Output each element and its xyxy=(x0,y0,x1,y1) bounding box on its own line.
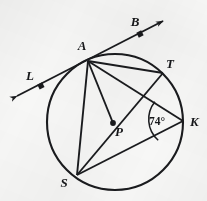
point-label-B: B xyxy=(130,14,140,29)
point-label-A: A xyxy=(77,38,87,53)
radius-AP xyxy=(88,61,113,123)
point-label-P: P xyxy=(115,124,124,139)
point-label-K: K xyxy=(189,114,200,129)
angle-label-74: 74° xyxy=(149,115,166,127)
chord-AS xyxy=(77,61,88,175)
geometry-canvas: A T K S P L B 74° xyxy=(0,0,207,201)
point-label-L: L xyxy=(25,68,34,83)
geometry-figure: A T K S P L B 74° xyxy=(0,0,207,201)
point-label-T: T xyxy=(166,56,175,71)
point-label-S: S xyxy=(60,175,67,190)
